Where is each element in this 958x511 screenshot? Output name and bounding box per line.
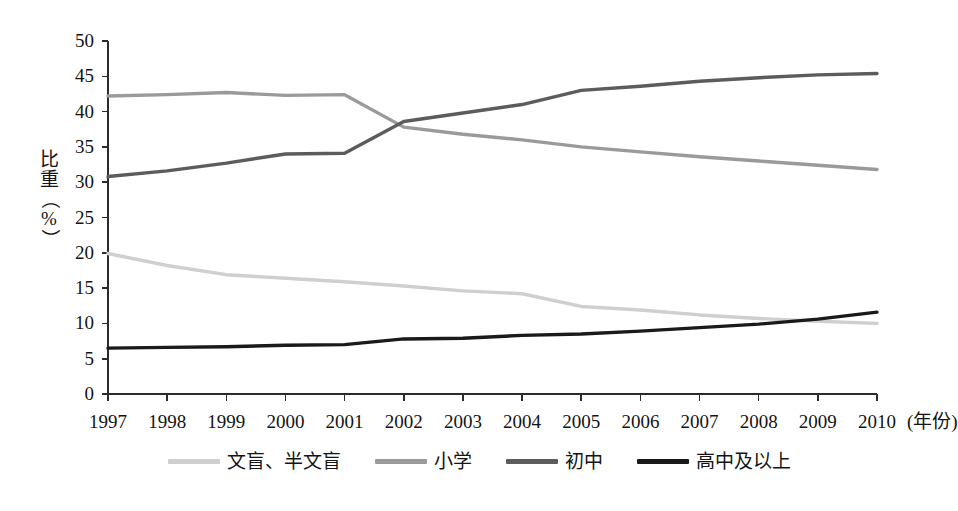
y-tick-label: 40 <box>56 102 94 121</box>
y-tick-label: 0 <box>56 384 94 403</box>
x-tick-label: 2001 <box>313 412 377 431</box>
legend-label: 初中 <box>565 452 603 471</box>
x-tick-label: 2010 <box>845 412 909 431</box>
legend-item[interactable]: 文盲、半文盲 <box>168 452 341 471</box>
y-tick-label: 45 <box>56 66 94 85</box>
x-tick-label: 2002 <box>372 412 436 431</box>
legend-label: 文盲、半文盲 <box>227 452 341 471</box>
series-lines <box>108 73 877 348</box>
x-axis-unit-label: (年份) <box>907 412 958 431</box>
legend-swatch-icon <box>375 459 427 464</box>
y-tick-label: 10 <box>56 313 94 332</box>
chart-legend: 文盲、半文盲小学初中高中及以上 <box>0 452 958 471</box>
y-tick-label: 5 <box>56 349 94 368</box>
x-tick-label: 1997 <box>76 412 140 431</box>
legend-item[interactable]: 高中及以上 <box>637 452 791 471</box>
plot-area <box>0 0 958 511</box>
legend-swatch-icon <box>637 459 689 464</box>
y-tick-label: 30 <box>56 172 94 191</box>
legend-item[interactable]: 初中 <box>506 452 603 471</box>
x-tick-label: 2005 <box>549 412 613 431</box>
x-tick-label: 2000 <box>253 412 317 431</box>
y-tick-label: 15 <box>56 278 94 297</box>
y-tick-label: 25 <box>56 208 94 227</box>
legend-swatch-icon <box>506 459 558 464</box>
x-tick-label: 2009 <box>786 412 850 431</box>
series-line <box>108 93 877 170</box>
legend-label: 高中及以上 <box>696 452 791 471</box>
chart-figure: 比 重 （ % ） 50454035302520151050 199719981… <box>0 0 958 511</box>
x-tick-label: 1998 <box>135 412 199 431</box>
legend-label: 小学 <box>434 452 472 471</box>
x-tick-label: 2008 <box>727 412 791 431</box>
x-tick-label: 2006 <box>608 412 672 431</box>
series-line <box>108 254 877 324</box>
y-tick-label: 35 <box>56 137 94 156</box>
legend-item[interactable]: 小学 <box>375 452 472 471</box>
y-tick-label: 50 <box>56 31 94 50</box>
y-tick-label: 20 <box>56 243 94 262</box>
legend-swatch-icon <box>168 459 220 464</box>
x-tick-label: 2003 <box>431 412 495 431</box>
x-tick-label: 1999 <box>194 412 258 431</box>
x-tick-label: 2007 <box>668 412 732 431</box>
x-tick-label: 2004 <box>490 412 554 431</box>
